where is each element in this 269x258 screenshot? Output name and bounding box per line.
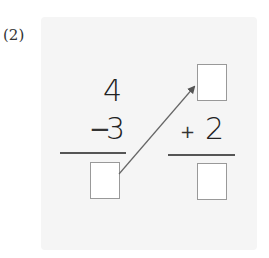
arrow-icon (0, 0, 269, 258)
